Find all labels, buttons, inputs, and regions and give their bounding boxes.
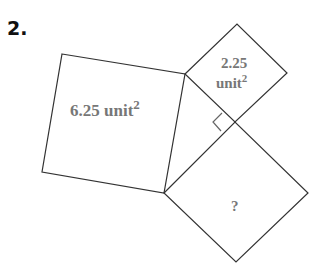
unknown-square <box>164 122 308 262</box>
right-angle-marker <box>213 113 222 131</box>
large-square <box>42 54 185 193</box>
large-square-label: 6.25 unit2 <box>70 97 140 120</box>
small-square <box>185 24 287 122</box>
unknown-square-label: ? <box>231 198 239 214</box>
small-square-label-line1: 2.25 <box>221 55 247 71</box>
small-square-label-line2: unit2 <box>216 72 248 91</box>
pythagorean-diagram: 6.25 unit2 2.25 unit2 ? <box>0 0 319 271</box>
